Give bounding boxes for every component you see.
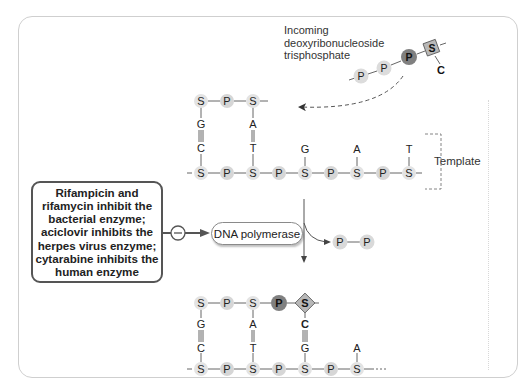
node-label: S [197, 297, 204, 309]
node-label: P [363, 236, 370, 248]
node-label: C [301, 318, 309, 330]
base-label: G [301, 143, 310, 155]
inhibitor-text: Rifampicin and rifamycin inhibit the bac… [35, 186, 158, 278]
pyrophosphate: P P [333, 235, 375, 250]
base-label: C [197, 142, 205, 154]
phosphate-node: P [380, 62, 387, 74]
node-label: S [301, 297, 308, 309]
node-label: S [249, 297, 256, 309]
base-label: A [353, 143, 361, 155]
base-label: T [250, 142, 257, 154]
phosphate-node: P [357, 70, 364, 82]
inhibition-connector [163, 226, 210, 240]
base-label: C [437, 64, 445, 76]
node-label: G [197, 318, 206, 330]
sugar-node: S [197, 95, 204, 107]
after-new-strand [199, 303, 357, 362]
node-label: P [327, 363, 334, 375]
node-label: S [197, 363, 204, 375]
before-new-strand [199, 101, 268, 166]
before-new-strand-nodes: S P S G A C T G A T [194, 94, 413, 155]
after-new-strand-nodes: S P S P S G A C C T G A [194, 293, 361, 354]
template-bracket [425, 134, 441, 189]
node-label: S [249, 167, 256, 179]
node-label: S [249, 363, 256, 375]
node-label: P [275, 297, 282, 309]
node-label: S [353, 167, 360, 179]
node-label: P [275, 363, 282, 375]
node-label: P [327, 167, 334, 179]
node-label: P [223, 167, 230, 179]
sugar-node: S [428, 42, 435, 54]
node-label: T [250, 342, 257, 354]
node-label: S [353, 363, 360, 375]
node-label: P [223, 363, 230, 375]
inhibitor-box: Rifampicin and rifamycin inhibit the bac… [31, 181, 163, 283]
node-label: P [275, 167, 282, 179]
node-label: A [249, 318, 257, 330]
node-label: S [301, 167, 308, 179]
alpha-phosphate-node: P [405, 51, 412, 63]
node-label: S [197, 167, 204, 179]
base-label: T [406, 143, 413, 155]
before-template-nodes: S P S P S P S P S [194, 166, 416, 180]
reaction-arrow [304, 199, 326, 258]
phosphate-node: P [223, 95, 230, 107]
sugar-node: S [249, 95, 256, 107]
base-label: G [197, 118, 206, 130]
enzyme-dna-polymerase: DNA polymerase [211, 222, 303, 245]
node-label: C [197, 342, 205, 354]
incoming-arrow [300, 76, 403, 107]
node-label: S [301, 363, 308, 375]
node-label: G [301, 342, 310, 354]
node-label: A [353, 342, 361, 354]
incoming-nucleotide: P P P S C [349, 39, 446, 83]
base-label: A [249, 118, 257, 130]
node-label: P [379, 167, 386, 179]
node-label: P [336, 236, 343, 248]
node-label: S [405, 167, 412, 179]
enzyme-label: DNA polymerase [214, 228, 300, 240]
node-label: P [223, 297, 230, 309]
